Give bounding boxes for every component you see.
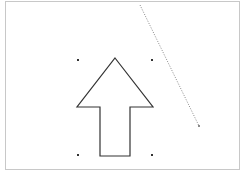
line-endpoint-handle[interactable] [198,125,200,127]
dotted-line[interactable] [140,5,199,126]
up-arrow-shape[interactable] [77,58,153,156]
drawing-layer [0,0,245,176]
handle-top-left[interactable] [77,59,79,61]
handle-bottom-right[interactable] [151,154,153,156]
handle-top-right[interactable] [151,59,153,61]
handle-bottom-left[interactable] [77,154,79,156]
